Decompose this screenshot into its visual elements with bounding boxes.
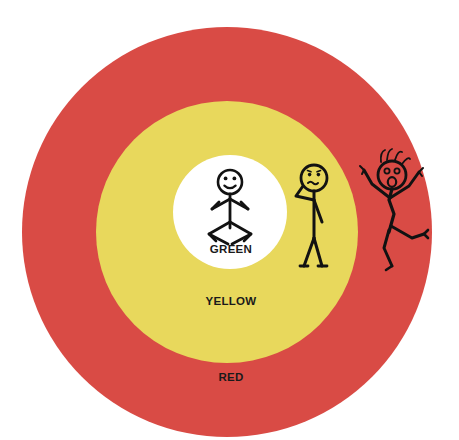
worried-figure-eye-right-icon [317,173,321,177]
calm-figure-eye-right-icon [233,177,237,181]
worried-figure-eye-left-icon [308,173,312,177]
calm-figure-eye-left-icon [224,177,228,181]
concentric-zone-diagram: GREEN YELLOW RED [0,0,459,440]
zone-label-green: GREEN [210,243,252,255]
zone-label-yellow: YELLOW [206,295,257,307]
zone-label-red: RED [218,371,243,383]
diagram-canvas: GREEN YELLOW RED [0,0,459,440]
